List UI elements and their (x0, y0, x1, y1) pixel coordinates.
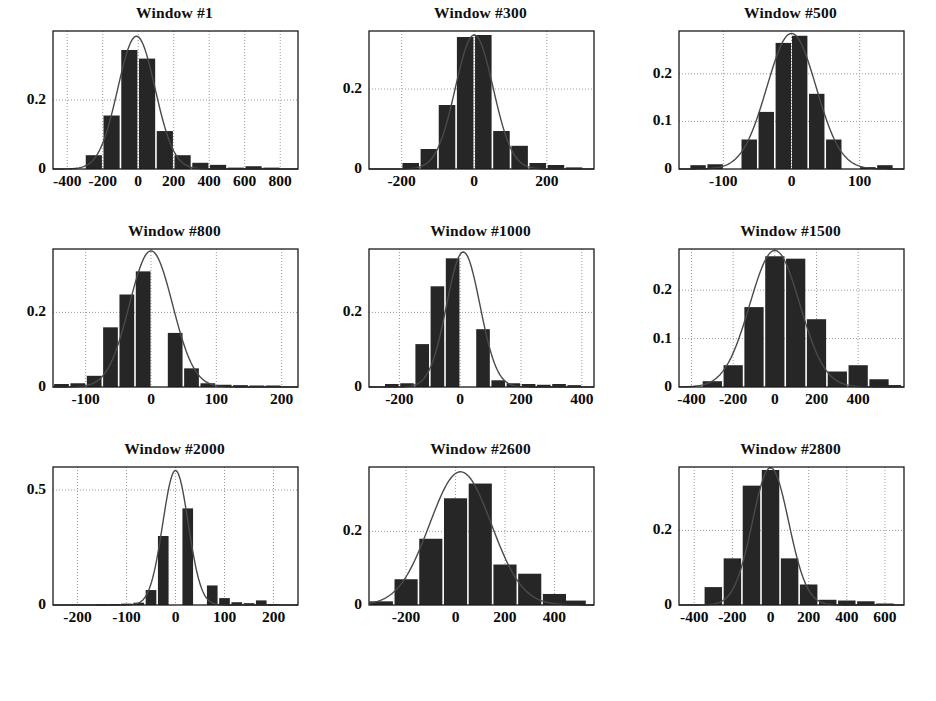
plot-area (678, 248, 903, 386)
y-tick-label: 0 (626, 159, 672, 177)
plot-area (368, 248, 593, 386)
panel-title: Window #2800 (678, 440, 903, 458)
y-tick-label: 0 (316, 159, 362, 177)
histogram-panel: Window #150000.10.2-400-2000200400 (626, 222, 907, 418)
panel-title: Window #300 (368, 4, 593, 22)
x-tick-label: 200 (491, 390, 551, 408)
y-tick-label: 0.2 (0, 90, 46, 108)
y-tick-label: 0.2 (626, 280, 672, 298)
plot-svg (52, 248, 299, 388)
panel-title: Window #2000 (52, 440, 297, 458)
histogram-panel: Window #100000.2-2000200400 (316, 222, 597, 418)
panel-title: Window #500 (678, 4, 903, 22)
x-tick-label: -200 (369, 390, 429, 408)
panel-title: Window #1500 (678, 222, 903, 240)
y-tick-label: 0 (316, 595, 362, 613)
histogram-panel: Window #100.2-400-2000200400600800 (0, 4, 301, 200)
x-tick-label: 200 (252, 390, 312, 408)
y-tick-label: 0.1 (626, 111, 672, 129)
panel-title: Window #1000 (368, 222, 593, 240)
histogram-panel: Window #50000.10.2-1000100 (626, 4, 907, 200)
y-tick-label: 0 (0, 377, 46, 395)
plot-svg (368, 30, 595, 170)
histogram-panel: Window #30000.2-2000200 (316, 4, 597, 200)
x-tick-label: -100 (56, 390, 116, 408)
x-tick-label: 200 (244, 608, 304, 626)
x-tick-label: -200 (372, 172, 432, 190)
plot-area (368, 30, 593, 168)
histogram-panel: Window #280000.2-400-2000200400600 (626, 440, 907, 636)
x-tick-label: 400 (524, 608, 584, 626)
plot-area (368, 466, 593, 604)
plot-svg (678, 248, 905, 388)
y-tick-label: 0.5 (0, 480, 46, 498)
x-tick-label: 400 (828, 390, 888, 408)
x-tick-label: 0 (121, 390, 181, 408)
plot-area (678, 466, 903, 604)
y-tick-label: 0.2 (316, 302, 362, 320)
x-tick-label: 200 (517, 172, 577, 190)
x-tick-label: 800 (250, 172, 310, 190)
y-tick-label: 0 (316, 377, 362, 395)
panel-title: Window #2600 (368, 440, 593, 458)
y-tick-label: 0.2 (316, 521, 362, 539)
plot-svg (52, 30, 299, 170)
plot-area (678, 30, 903, 168)
plot-area (52, 466, 297, 604)
x-tick-label: 600 (855, 608, 915, 626)
plot-svg (368, 248, 595, 388)
plot-svg (368, 466, 595, 606)
x-tick-label: 100 (186, 390, 246, 408)
x-tick-label: 0 (444, 172, 504, 190)
plot-svg (678, 30, 905, 170)
panel-title: Window #1 (52, 4, 297, 22)
y-tick-label: 0.2 (626, 64, 672, 82)
histogram-panel: Window #200000.5-200-1000100200 (0, 440, 301, 636)
plot-svg (678, 466, 905, 606)
plot-area (52, 248, 297, 386)
y-tick-label: 0.2 (316, 79, 362, 97)
y-tick-label: 0.1 (626, 329, 672, 347)
y-tick-label: 0 (0, 595, 46, 613)
plot-svg (52, 466, 299, 606)
x-tick-label: 0 (762, 172, 822, 190)
panel-title: Window #800 (52, 222, 297, 240)
plot-area (52, 30, 297, 168)
x-tick-label: 400 (552, 390, 612, 408)
y-tick-label: 0.2 (626, 520, 672, 538)
x-tick-label: -100 (693, 172, 753, 190)
histogram-panel: Window #80000.2-1000100200 (0, 222, 301, 418)
histogram-grid-figure: Window #100.2-400-2000200400600800Window… (0, 0, 936, 701)
x-tick-label: 100 (830, 172, 890, 190)
histogram-panel: Window #260000.2-2000200400 (316, 440, 597, 636)
x-tick-label: 0 (430, 390, 490, 408)
y-tick-label: 0.2 (0, 302, 46, 320)
